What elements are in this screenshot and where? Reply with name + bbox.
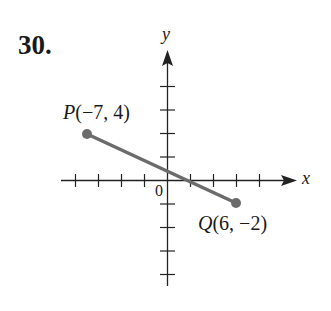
point-p <box>82 129 92 139</box>
point-p-label: P(−7, 4) <box>63 101 130 124</box>
point-q-label: Q(6, −2) <box>198 212 267 235</box>
point-q <box>231 198 241 208</box>
y-axis-label: y <box>162 24 170 45</box>
point-p-name: P <box>63 101 75 123</box>
point-p-coords: (−7, 4) <box>75 101 130 123</box>
point-q-name: Q <box>198 212 212 234</box>
coordinate-plane <box>0 0 331 311</box>
point-q-coords: (6, −2) <box>212 212 267 234</box>
x-axis-label: x <box>302 168 310 189</box>
origin-label: 0 <box>155 182 163 200</box>
